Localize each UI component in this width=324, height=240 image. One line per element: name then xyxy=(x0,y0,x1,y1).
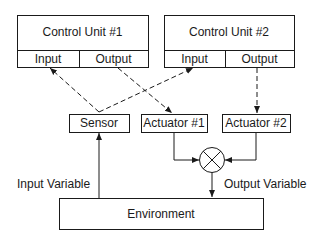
control-unit-1-output: Output xyxy=(79,53,148,65)
output-variable-label: Output Variable xyxy=(224,178,307,190)
control-unit-2-title: Control Unit #2 xyxy=(164,26,294,38)
input-variable-label: Input Variable xyxy=(17,178,90,190)
control-unit-1-title: Control Unit #1 xyxy=(17,26,148,38)
sensor-label: Sensor xyxy=(69,117,129,129)
control-unit-1-input: Input xyxy=(17,53,79,65)
environment-label: Environment xyxy=(59,208,263,220)
control-unit-2-output: Output xyxy=(225,53,294,65)
control-unit-2-input: Input xyxy=(164,53,225,65)
actuator-1-label: Actuator #1 xyxy=(141,117,207,129)
actuator-2-label: Actuator #2 xyxy=(222,117,290,129)
